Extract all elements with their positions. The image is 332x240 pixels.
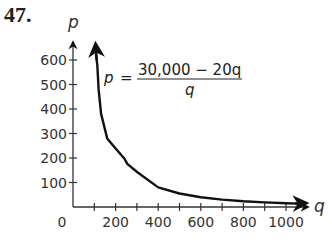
svg-text:1000: 1000 bbox=[268, 214, 304, 230]
svg-text:300: 300 bbox=[40, 126, 67, 142]
y-tick-labels: 100 200 300 400 500 600 bbox=[40, 52, 67, 191]
svg-text:0: 0 bbox=[58, 214, 67, 230]
y-axis-label: p bbox=[67, 12, 79, 32]
svg-text:q: q bbox=[185, 81, 195, 99]
svg-text:30,000 − 20q: 30,000 − 20q bbox=[138, 61, 241, 79]
svg-text:p: p bbox=[103, 69, 114, 87]
svg-text:200: 200 bbox=[40, 150, 67, 166]
svg-text:500: 500 bbox=[40, 77, 67, 93]
svg-text:600: 600 bbox=[40, 52, 67, 68]
svg-text:600: 600 bbox=[187, 214, 214, 230]
demand-curve-chart: 100 200 300 400 500 600 0 200 400 600 80… bbox=[0, 0, 332, 240]
svg-text:800: 800 bbox=[230, 214, 257, 230]
svg-text:=: = bbox=[120, 69, 133, 87]
equation-annotation: p = 30,000 − 20q q bbox=[103, 61, 242, 99]
x-axis-label: q bbox=[314, 196, 325, 216]
curve-arrow-top bbox=[96, 44, 97, 60]
svg-text:200: 200 bbox=[102, 214, 129, 230]
svg-text:400: 400 bbox=[40, 101, 67, 117]
svg-text:100: 100 bbox=[40, 175, 67, 191]
svg-text:400: 400 bbox=[145, 214, 172, 230]
x-tick-labels: 0 200 400 600 800 1000 bbox=[58, 214, 304, 230]
